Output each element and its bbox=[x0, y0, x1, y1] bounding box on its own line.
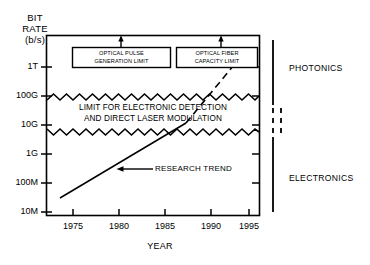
band-label-line1: LIMIT FOR ELECTRONIC DETECTION bbox=[47, 103, 259, 114]
x-tick-label-1985: 1985 bbox=[145, 221, 185, 231]
band-label: LIMIT FOR ELECTRONIC DETECTION AND DIREC… bbox=[47, 103, 259, 124]
y-axis-title-line1: BIT bbox=[18, 12, 52, 23]
y-tick-label-100g: 100G bbox=[0, 90, 38, 100]
y-axis-title: BIT RATE (b/s) bbox=[18, 12, 52, 45]
band-label-line2: AND DIRECT LASER MODULATION bbox=[47, 114, 259, 125]
region-label-photonics: PHOTONICS bbox=[289, 63, 343, 73]
callout-fiber-line2: CAPACITY LIMIT bbox=[176, 58, 258, 66]
callout-pulse-line1: OPTICAL PULSE bbox=[72, 50, 171, 58]
bit-rate-vs-year-figure: BIT RATE (b/s) 1T 100G 10G 1G 100M 10M 1… bbox=[0, 0, 370, 265]
y-tick-label-1t: 1T bbox=[0, 61, 38, 71]
research-trend-label: RESEARCH TREND bbox=[155, 164, 232, 173]
y-axis-title-line2: RATE bbox=[18, 23, 52, 34]
y-tick-label-10m: 10M bbox=[0, 206, 38, 216]
y-tick-label-10g: 10G bbox=[0, 119, 38, 129]
callout-pulse-text: OPTICAL PULSE GENERATION LIMIT bbox=[72, 50, 171, 65]
x-axis-title: YEAR bbox=[120, 241, 200, 251]
callout-fiber-text: OPTICAL FIBER CAPACITY LIMIT bbox=[176, 50, 258, 65]
y-tick-label-1g: 1G bbox=[0, 148, 38, 158]
y-tick-label-100m: 100M bbox=[0, 177, 38, 187]
x-tick-label-1995: 1995 bbox=[229, 221, 269, 231]
region-label-electronics: ELECTRONICS bbox=[289, 173, 353, 183]
callout-fiber-line1: OPTICAL FIBER bbox=[176, 50, 258, 58]
callout-pulse-line2: GENERATION LIMIT bbox=[72, 58, 171, 66]
region-divider bbox=[273, 40, 281, 212]
x-tick-label-1980: 1980 bbox=[99, 221, 139, 231]
x-tick-label-1990: 1990 bbox=[191, 221, 231, 231]
y-axis-title-line3: (b/s) bbox=[18, 34, 52, 45]
x-tick-label-1975: 1975 bbox=[53, 221, 93, 231]
